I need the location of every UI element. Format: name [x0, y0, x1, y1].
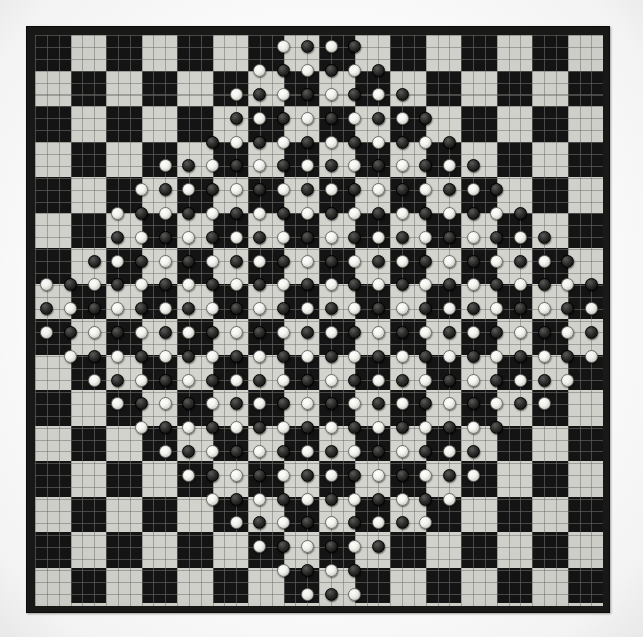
- white-piece[interactable]: [111, 397, 124, 410]
- black-piece[interactable]: [111, 374, 124, 387]
- white-piece[interactable]: [561, 278, 574, 291]
- black-piece[interactable]: [253, 374, 266, 387]
- black-piece[interactable]: [372, 159, 385, 172]
- white-piece[interactable]: [419, 374, 432, 387]
- black-piece[interactable]: [253, 469, 266, 482]
- black-piece[interactable]: [348, 516, 361, 529]
- board-surface[interactable]: [35, 35, 603, 606]
- black-piece[interactable]: [253, 231, 266, 244]
- black-piece[interactable]: [419, 207, 432, 220]
- white-piece[interactable]: [253, 302, 266, 315]
- black-piece[interactable]: [419, 112, 432, 125]
- white-piece[interactable]: [514, 326, 527, 339]
- black-piece[interactable]: [301, 564, 314, 577]
- black-piece[interactable]: [277, 207, 290, 220]
- white-piece[interactable]: [230, 516, 243, 529]
- black-piece[interactable]: [230, 112, 243, 125]
- white-piece[interactable]: [372, 183, 385, 196]
- white-piece[interactable]: [348, 159, 361, 172]
- black-piece[interactable]: [88, 302, 101, 315]
- black-piece[interactable]: [561, 255, 574, 268]
- white-piece[interactable]: [419, 278, 432, 291]
- black-piece[interactable]: [419, 397, 432, 410]
- black-piece[interactable]: [348, 564, 361, 577]
- white-piece[interactable]: [135, 231, 148, 244]
- white-piece[interactable]: [159, 207, 172, 220]
- black-piece[interactable]: [230, 493, 243, 506]
- white-piece[interactable]: [443, 397, 456, 410]
- black-piece[interactable]: [135, 255, 148, 268]
- black-piece[interactable]: [325, 397, 338, 410]
- white-piece[interactable]: [182, 421, 195, 434]
- black-piece[interactable]: [253, 88, 266, 101]
- white-piece[interactable]: [64, 350, 77, 363]
- white-piece[interactable]: [230, 231, 243, 244]
- white-piece[interactable]: [325, 421, 338, 434]
- black-piece[interactable]: [467, 159, 480, 172]
- white-piece[interactable]: [490, 350, 503, 363]
- black-piece[interactable]: [372, 397, 385, 410]
- black-piece[interactable]: [372, 540, 385, 553]
- white-piece[interactable]: [372, 421, 385, 434]
- black-piece[interactable]: [277, 302, 290, 315]
- black-piece[interactable]: [325, 493, 338, 506]
- black-piece[interactable]: [372, 207, 385, 220]
- white-piece[interactable]: [396, 493, 409, 506]
- black-piece[interactable]: [182, 350, 195, 363]
- black-piece[interactable]: [490, 183, 503, 196]
- black-piece[interactable]: [348, 136, 361, 149]
- white-piece[interactable]: [538, 397, 551, 410]
- black-piece[interactable]: [372, 445, 385, 458]
- white-piece[interactable]: [182, 278, 195, 291]
- black-piece[interactable]: [325, 445, 338, 458]
- white-piece[interactable]: [348, 493, 361, 506]
- white-piece[interactable]: [40, 278, 53, 291]
- black-piece[interactable]: [372, 255, 385, 268]
- black-piece[interactable]: [182, 159, 195, 172]
- white-piece[interactable]: [277, 88, 290, 101]
- black-piece[interactable]: [253, 421, 266, 434]
- black-piece[interactable]: [277, 540, 290, 553]
- black-piece[interactable]: [325, 159, 338, 172]
- white-piece[interactable]: [325, 136, 338, 149]
- white-piece[interactable]: [443, 302, 456, 315]
- black-piece[interactable]: [372, 302, 385, 315]
- black-piece[interactable]: [301, 40, 314, 53]
- black-piece[interactable]: [253, 136, 266, 149]
- white-piece[interactable]: [372, 231, 385, 244]
- white-piece[interactable]: [467, 326, 480, 339]
- white-piece[interactable]: [277, 374, 290, 387]
- black-piece[interactable]: [135, 302, 148, 315]
- white-piece[interactable]: [467, 374, 480, 387]
- black-piece[interactable]: [396, 374, 409, 387]
- white-piece[interactable]: [301, 302, 314, 315]
- black-piece[interactable]: [514, 255, 527, 268]
- white-piece[interactable]: [396, 112, 409, 125]
- black-piece[interactable]: [64, 326, 77, 339]
- black-piece[interactable]: [230, 255, 243, 268]
- white-piece[interactable]: [419, 516, 432, 529]
- black-piece[interactable]: [372, 112, 385, 125]
- black-piece[interactable]: [325, 64, 338, 77]
- black-piece[interactable]: [348, 88, 361, 101]
- white-piece[interactable]: [419, 326, 432, 339]
- white-piece[interactable]: [301, 397, 314, 410]
- black-piece[interactable]: [277, 255, 290, 268]
- white-piece[interactable]: [88, 374, 101, 387]
- white-piece[interactable]: [538, 302, 551, 315]
- black-piece[interactable]: [206, 183, 219, 196]
- black-piece[interactable]: [88, 255, 101, 268]
- black-piece[interactable]: [230, 207, 243, 220]
- white-piece[interactable]: [111, 302, 124, 315]
- white-piece[interactable]: [64, 302, 77, 315]
- white-piece[interactable]: [325, 564, 338, 577]
- white-piece[interactable]: [325, 516, 338, 529]
- black-piece[interactable]: [159, 421, 172, 434]
- black-piece[interactable]: [490, 231, 503, 244]
- white-piece[interactable]: [277, 421, 290, 434]
- black-piece[interactable]: [419, 493, 432, 506]
- white-piece[interactable]: [159, 397, 172, 410]
- black-piece[interactable]: [514, 350, 527, 363]
- black-piece[interactable]: [467, 445, 480, 458]
- black-piece[interactable]: [206, 136, 219, 149]
